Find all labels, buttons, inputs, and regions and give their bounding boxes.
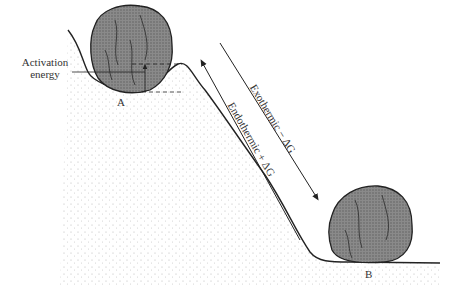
- energy-hill-diagram: Activation energy A B Exothermic − ΔG En…: [0, 0, 458, 287]
- activation-label-line1: Activation: [16, 56, 74, 68]
- rock-b: [329, 186, 412, 263]
- activation-label-line2: energy: [16, 68, 74, 80]
- state-a-label: A: [117, 96, 125, 108]
- diagram-drawing: [0, 0, 458, 287]
- state-b-label: B: [365, 268, 372, 280]
- activation-energy-label: Activation energy: [16, 56, 74, 80]
- rock-a: [91, 5, 173, 92]
